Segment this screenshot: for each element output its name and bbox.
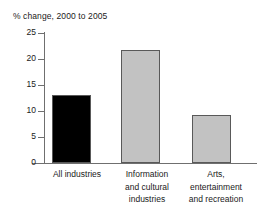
y-axis-tick: [38, 163, 44, 164]
x-axis-label-line: entertainment: [170, 181, 262, 194]
y-axis-tick-label-wrap: 0: [0, 158, 36, 167]
bar-arts-entertainment-and-recreation[interactable]: [192, 115, 231, 163]
bar-information-and-cultural-industries[interactable]: [121, 50, 160, 163]
x-axis-label-line: and recreation: [170, 193, 262, 206]
y-axis-tick-label: 20: [2, 54, 36, 63]
bar-all-industries[interactable]: [52, 95, 91, 163]
y-axis-tick-label-wrap: 5: [0, 132, 36, 141]
y-axis-tick-label: 0: [2, 158, 36, 167]
y-axis-tick-label: 10: [2, 106, 36, 115]
x-axis-label-arts-entertainment-and-recreation: Arts, entertainment and recreation: [170, 168, 262, 206]
y-axis-tick-label: 5: [2, 132, 36, 141]
bar-chart-figure: % change, 2000 to 2005 0 5 10 15 20 25 A…: [0, 0, 262, 221]
y-axis-tick-label-wrap: 25: [0, 28, 36, 37]
y-axis-tick-label-wrap: 10: [0, 106, 36, 115]
x-axis-line: [32, 163, 257, 164]
y-axis-tick-label: 25: [2, 28, 36, 37]
chart-title: % change, 2000 to 2005: [13, 11, 107, 22]
y-axis-tick-label: 15: [2, 80, 36, 89]
x-axis-label-line: Arts,: [170, 168, 262, 181]
y-axis-tick-label-wrap: 20: [0, 54, 36, 63]
plot-area: [44, 33, 249, 163]
y-axis-tick-label-wrap: 15: [0, 80, 36, 89]
